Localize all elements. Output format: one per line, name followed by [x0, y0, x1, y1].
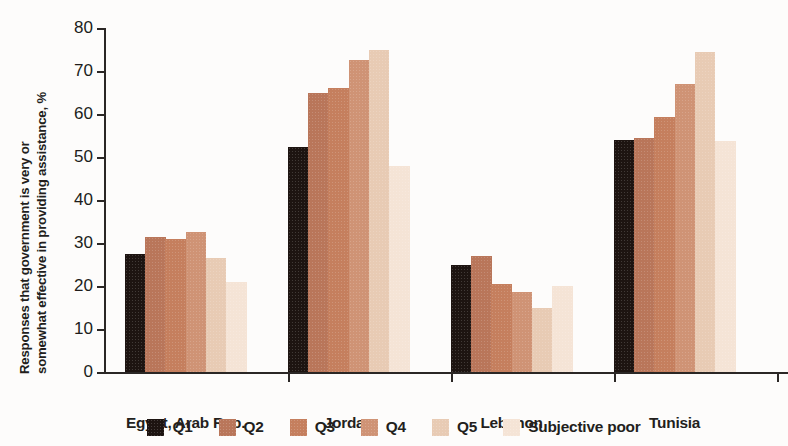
bar	[675, 84, 696, 372]
bar	[206, 258, 227, 372]
legend-item[interactable]: Q2	[219, 418, 264, 436]
legend-label: Q3	[315, 418, 335, 436]
y-axis-tick	[97, 200, 104, 202]
y-axis-tick-label: 30	[74, 233, 93, 253]
x-axis-tick	[288, 372, 290, 382]
legend-swatch-icon	[361, 419, 378, 436]
legend-label: Q4	[386, 418, 406, 436]
y-axis-tick-label: 10	[74, 319, 93, 339]
bar	[328, 88, 349, 372]
bar	[614, 140, 635, 372]
legend-swatch-icon	[290, 419, 307, 436]
y-axis-title-line-2: somewhat effective in providing assistan…	[33, 8, 50, 374]
y-axis-tick	[97, 71, 104, 73]
y-axis-tick	[97, 114, 104, 116]
bar	[512, 292, 533, 372]
x-axis-tick	[451, 372, 453, 382]
y-axis-tick-label: 70	[74, 61, 93, 81]
legend-label: Q5	[457, 418, 477, 436]
legend-item[interactable]: Q1	[147, 418, 192, 436]
chart-figure: Responses that government is very or som…	[0, 0, 788, 446]
legend-label: Subjective poor	[528, 418, 640, 436]
bar	[125, 254, 146, 372]
bar	[552, 286, 573, 372]
bars-layer	[104, 28, 780, 372]
legend-item[interactable]: Q4	[361, 418, 406, 436]
legend-swatch-icon	[432, 419, 449, 436]
bar	[226, 282, 247, 372]
y-axis-title-line-1: Responses that government is very or	[16, 8, 33, 374]
bar	[634, 138, 655, 372]
legend-item[interactable]: Q3	[290, 418, 335, 436]
bar	[471, 256, 492, 372]
bar	[715, 141, 736, 372]
bar	[389, 166, 410, 372]
y-axis-tick	[97, 157, 104, 159]
plot-area: 01020304050607080 Egypt, Arab Rep.Jordan…	[104, 28, 780, 372]
legend-label: Q2	[244, 418, 264, 436]
x-axis-line	[104, 372, 788, 374]
y-axis-tick	[97, 28, 104, 30]
legend-swatch-icon	[503, 419, 520, 436]
legend-label: Q1	[172, 418, 192, 436]
y-axis-title: Responses that government is very or som…	[0, 0, 58, 380]
bar	[369, 50, 390, 373]
bar	[654, 117, 675, 372]
y-axis-tick-label: 40	[74, 190, 93, 210]
bar	[308, 93, 329, 373]
y-axis-tick-label: 60	[74, 104, 93, 124]
y-axis-tick	[97, 286, 104, 288]
y-axis-tick-label: 20	[74, 276, 93, 296]
legend-item[interactable]: Subjective poor	[503, 418, 640, 436]
bar	[532, 308, 553, 373]
x-axis-tick	[614, 372, 616, 382]
chart-legend: Q1Q2Q3Q4Q5Subjective poor	[0, 418, 788, 436]
legend-swatch-icon	[219, 419, 236, 436]
bar	[695, 52, 716, 372]
legend-item[interactable]: Q5	[432, 418, 477, 436]
y-axis-tick	[97, 243, 104, 245]
y-axis-tick-label: 80	[74, 18, 93, 38]
bar	[288, 147, 309, 372]
legend-swatch-icon	[147, 419, 164, 436]
y-axis-tick-label: 50	[74, 147, 93, 167]
y-axis-tick-label: 0	[84, 362, 93, 382]
y-axis-tick	[97, 372, 104, 374]
bar	[165, 239, 186, 372]
bar	[186, 232, 207, 372]
bar	[451, 265, 472, 373]
bar	[491, 284, 512, 372]
bar	[145, 237, 166, 372]
y-axis-tick	[97, 329, 104, 331]
x-axis-tick	[777, 372, 779, 382]
bar	[349, 60, 370, 372]
